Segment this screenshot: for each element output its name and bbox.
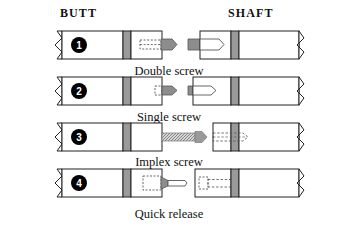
row-double-screw: 1 xyxy=(0,28,338,62)
butt-joint-sleeve xyxy=(131,31,162,59)
butt-end-zigzag xyxy=(55,123,62,151)
butt-collar-band xyxy=(123,123,131,151)
butt-screw-arrow xyxy=(161,39,177,50)
header-shaft: SHAFT xyxy=(228,6,274,21)
row-single-screw: 2 xyxy=(0,74,338,108)
butt-screw-arrow xyxy=(162,86,177,95)
shaft-body xyxy=(239,31,299,59)
butt-joint-sleeve xyxy=(131,169,162,197)
shaft-screw-stub xyxy=(188,39,200,50)
butt-joint-sleeve xyxy=(131,77,162,105)
butt-implex-pin-shaft xyxy=(162,133,195,141)
butt-joint-sleeve xyxy=(131,123,162,151)
shaft-body xyxy=(239,169,299,197)
butt-end-zigzag xyxy=(55,31,62,59)
butt-collar-band xyxy=(123,31,131,59)
row-quick-release: 4 xyxy=(0,166,338,200)
shaft-collar-band xyxy=(231,31,239,59)
butt-end-zigzag xyxy=(55,169,62,197)
cue-joint-types-diagram: BUTT SHAFT 1 Double screw xyxy=(0,0,338,238)
butt-collar-band xyxy=(123,77,131,105)
butt-qr-pin xyxy=(168,181,187,187)
header-butt: BUTT xyxy=(60,6,97,21)
shaft-socket-arrow xyxy=(193,86,216,95)
shaft-screw-stub xyxy=(188,86,193,95)
row-number-label: 2 xyxy=(76,86,82,97)
shaft-collar-band xyxy=(231,169,239,197)
butt-collar-band xyxy=(123,169,131,197)
row-number-label: 3 xyxy=(76,132,82,143)
shaft-socket-arrow xyxy=(200,39,224,50)
row-number-label: 1 xyxy=(76,40,82,51)
row-number-label: 4 xyxy=(76,178,82,189)
shaft-body xyxy=(239,123,299,151)
row-implex-screw: 3 xyxy=(0,120,338,154)
caption-quick-release: Quick release xyxy=(0,207,338,222)
butt-implex-pin-arrow xyxy=(195,132,207,143)
shaft-joint-sleeve xyxy=(195,169,231,197)
butt-end-zigzag xyxy=(55,77,62,105)
butt-qr-wedge xyxy=(161,177,168,189)
shaft-collar-band xyxy=(231,77,239,105)
shaft-body xyxy=(239,77,299,105)
